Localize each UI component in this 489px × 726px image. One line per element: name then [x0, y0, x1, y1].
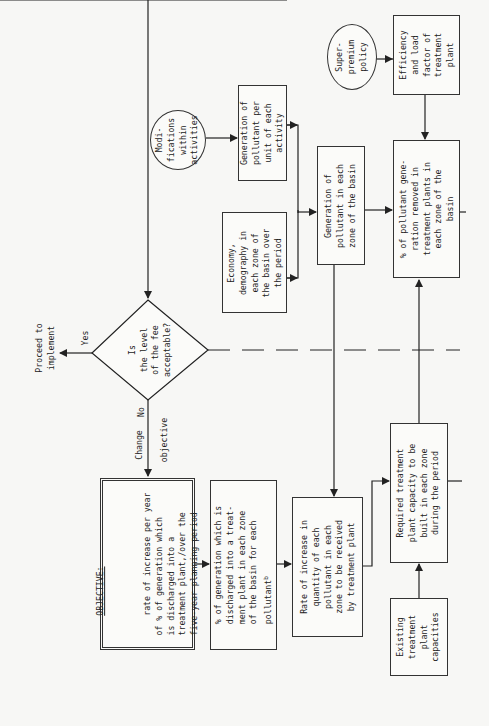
- yes-label: Yes: [80, 331, 92, 346]
- objective-label: objective: [159, 418, 171, 462]
- economy-demography-box: Economy, demography in each zone of the …: [222, 212, 287, 313]
- decision-question: Is the level of the fee acceptable?: [127, 323, 173, 377]
- generation-each-zone-text: Generation of pollutant in each zone of …: [323, 164, 358, 248]
- required-capacity-text: Required treatment plant capacity to be …: [395, 444, 442, 543]
- efficiency-load-box: Efficiency and load factor of treatment …: [393, 15, 460, 95]
- objective-heading: OBJECTIVE:: [94, 566, 104, 615]
- footnote-marker: b: [261, 576, 268, 580]
- pct-generation-discharged-text: % of generation which is discharged into…: [212, 506, 273, 624]
- pct-removed-box: % of pollutant gene- ration removed in t…: [393, 140, 460, 278]
- objective-text: rate of increase per year of % of genera…: [142, 493, 199, 636]
- existing-capacities-text: Existing treatment plant capacities: [395, 612, 442, 661]
- pct-generation-discharged-box: % of generation which is discharged into…: [210, 480, 277, 650]
- required-capacity-box: Required treatment plant capacity to be …: [390, 423, 448, 563]
- modifications-text: Modi- fications within activities: [154, 115, 201, 164]
- pct-removed-text: % of pollutant gene- ration removed in t…: [397, 160, 456, 259]
- super-premium-circle: Super- premium policy: [327, 24, 377, 90]
- super-premium-text: Super- premium policy: [334, 40, 369, 75]
- objective-box: OBJECTIVE: rate of increase per year of …: [100, 478, 195, 650]
- generation-per-unit-box: Generation of pollutant per unit of each…: [238, 85, 287, 181]
- change-label: Change: [134, 430, 146, 460]
- existing-capacities-box: Existing treatment plant capacities: [390, 598, 448, 676]
- modifications-circle: Modi- fications within activities: [150, 110, 206, 170]
- rate-increase-box: Rate of increase in quantity of each pol…: [292, 497, 363, 637]
- generation-each-zone-box: Generation of pollutant in each zone of …: [317, 146, 365, 265]
- no-label: No: [136, 407, 148, 417]
- rate-increase-text: Rate of increase in quantity of each pol…: [298, 520, 357, 614]
- economy-demography-text: Economy, demography in each zone of the …: [225, 228, 284, 297]
- proceed-to-implement-label: Proceed to implement: [34, 323, 57, 372]
- generation-per-unit-text: Generation of pollutant per unit of each…: [239, 101, 286, 165]
- efficiency-load-text: Efficiency and load factor of treatment …: [397, 30, 456, 79]
